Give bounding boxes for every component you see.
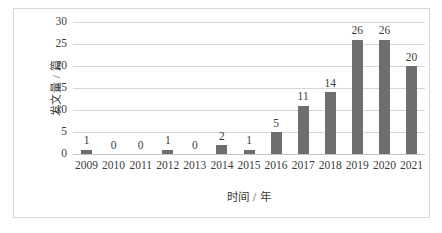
bar-value-label: 14	[324, 78, 336, 90]
bar-slot: 26	[371, 22, 398, 154]
bar	[406, 66, 417, 154]
x-axis-tick-labels: 2009201020112012201320142015201620172018…	[73, 160, 425, 172]
bar-value-label: 1	[165, 135, 171, 147]
x-axis-tick-label: 2014	[208, 160, 235, 172]
bar-slot: 0	[100, 22, 127, 154]
x-axis-tick-label: 2017	[290, 160, 317, 172]
x-axis-tick-label: 2018	[317, 160, 344, 172]
bar-slot: 1	[235, 22, 262, 154]
bar	[271, 132, 282, 154]
bar	[216, 145, 227, 154]
bar	[379, 40, 390, 154]
bar-value-label: 0	[138, 140, 144, 152]
x-axis-tick-label: 2016	[263, 160, 290, 172]
bar-value-label: 0	[192, 140, 198, 152]
x-axis-tick-label: 2020	[371, 160, 398, 172]
x-axis-title: 时间 / 年	[73, 188, 425, 204]
x-axis-tick-label: 2019	[344, 160, 371, 172]
bar-slot: 1	[73, 22, 100, 154]
bar-value-label: 11	[298, 91, 309, 103]
bar-slot: 26	[344, 22, 371, 154]
bar-slot: 0	[127, 22, 154, 154]
bar-value-label: 1	[246, 135, 252, 147]
bar-slot: 14	[317, 22, 344, 154]
bar-value-label: 26	[379, 25, 391, 37]
bar-slot: 20	[398, 22, 425, 154]
x-axis-tick-label: 2011	[127, 160, 154, 172]
chart-figure: 发文量 / 篇 100102151114262620 051015202530 …	[0, 0, 442, 233]
bar	[298, 106, 309, 154]
x-axis-tick-label: 2010	[100, 160, 127, 172]
bar	[81, 150, 92, 154]
bar-value-label: 2	[219, 131, 225, 143]
bar-value-label: 26	[352, 25, 364, 37]
x-axis-tick-label: 2009	[73, 160, 100, 172]
bar-slot: 2	[208, 22, 235, 154]
x-axis-tick-label: 2012	[154, 160, 181, 172]
bar-value-label: 0	[111, 140, 117, 152]
x-axis-tick-label: 2015	[235, 160, 262, 172]
bar	[162, 150, 173, 154]
bar	[325, 92, 336, 154]
x-axis-tick-label: 2021	[398, 160, 425, 172]
bar-value-label: 5	[273, 118, 279, 130]
bar-value-label: 1	[84, 135, 90, 147]
y-axis-title: 发文量 / 篇	[47, 22, 63, 154]
bar-series: 100102151114262620	[73, 22, 425, 154]
bar-value-label: 20	[406, 52, 418, 64]
x-axis-tick-label: 2013	[181, 160, 208, 172]
bar-slot: 1	[154, 22, 181, 154]
bar-slot: 11	[290, 22, 317, 154]
bar	[352, 40, 363, 154]
gridline	[73, 154, 425, 155]
bar	[244, 150, 255, 154]
plot-area: 发文量 / 篇 100102151114262620	[73, 22, 425, 154]
bar-slot: 5	[263, 22, 290, 154]
bar-slot: 0	[181, 22, 208, 154]
